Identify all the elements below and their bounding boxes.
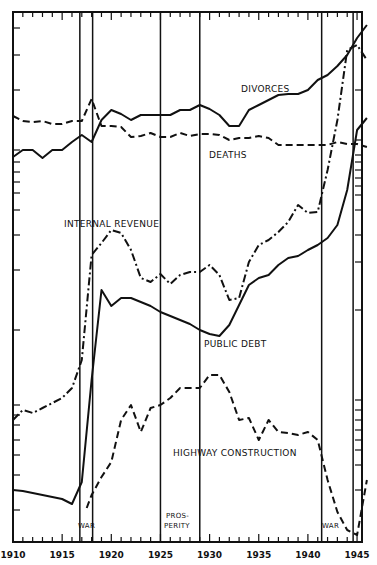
series-deaths: [13, 99, 367, 147]
series-public-debt: [13, 118, 367, 504]
x-tick-label: 1910: [0, 550, 25, 560]
axis-ticks: [13, 12, 362, 542]
annotation-war-2: WAR: [322, 522, 339, 530]
label-public-debt: PUBLIC DEBT: [204, 339, 267, 349]
annotation-prosperity-1: PROS-: [166, 512, 189, 520]
annotation-war-1: WAR: [78, 522, 95, 530]
x-tick-label: 1935: [246, 550, 271, 560]
chart-canvas: DIVORCES DEATHS INTERNAL REVENUE PUBLIC …: [0, 0, 377, 565]
label-highway-construction: HIGHWAY CONSTRUCTION: [173, 448, 297, 458]
annotation-prosperity-2: PERITY: [164, 522, 190, 530]
label-divorces: DIVORCES: [241, 84, 290, 94]
x-tick-label: 1945: [345, 550, 370, 560]
plot-frame: [13, 12, 362, 542]
vertical-period-lines: [80, 12, 353, 542]
series-divorces: [13, 25, 367, 158]
x-tick-label: 1930: [197, 550, 222, 560]
x-tick-label: 1940: [295, 550, 320, 560]
x-tick-label: 1920: [99, 550, 124, 560]
x-axis-labels: 19101915192019251930193519401945: [0, 550, 369, 560]
label-deaths: DEATHS: [209, 150, 247, 160]
x-tick-label: 1915: [50, 550, 75, 560]
label-internal-revenue: INTERNAL REVENUE: [64, 219, 159, 229]
data-series: [13, 25, 367, 535]
x-tick-label: 1925: [148, 550, 173, 560]
series-internal-revenue: [13, 45, 367, 420]
